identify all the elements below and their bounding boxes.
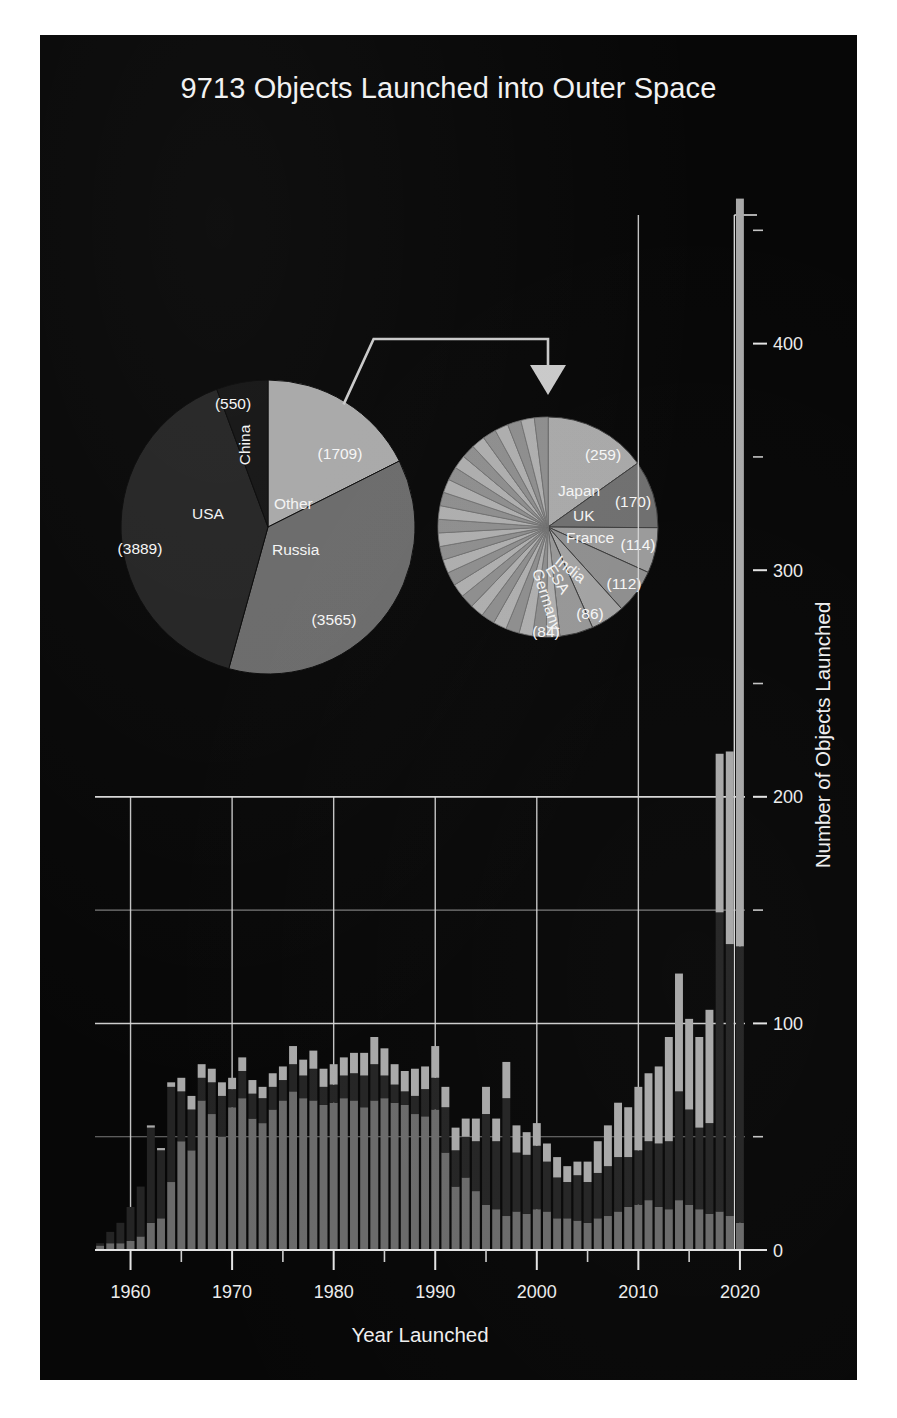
bar-segment-usa	[208, 1082, 216, 1114]
pie-label: (259)	[585, 446, 621, 463]
bar-segment-other	[299, 1060, 307, 1076]
x-tick-label: 1980	[314, 1282, 354, 1302]
bar-segment-russia	[350, 1100, 358, 1250]
bar-segment-usa	[604, 1166, 612, 1216]
bar-segment-usa	[289, 1064, 297, 1091]
main-breakdown-pie	[121, 380, 415, 674]
bar-segment-usa	[259, 1098, 267, 1123]
y-tick-label: 100	[773, 1014, 803, 1034]
bar-segment-russia	[188, 1150, 196, 1250]
bar-segment-other	[492, 1119, 500, 1142]
bar-segment-usa	[624, 1157, 632, 1207]
bar-segment-russia	[665, 1209, 673, 1250]
bar-segment-russia	[431, 1110, 439, 1250]
bar-segment-russia	[685, 1205, 693, 1250]
bar-segment-russia	[736, 1223, 744, 1250]
bar-segment-russia	[675, 1200, 683, 1250]
bar-segment-usa	[472, 1141, 480, 1191]
bar-segment-usa	[391, 1085, 399, 1103]
bar-segment-russia	[421, 1116, 429, 1250]
bar-segment-other	[248, 1080, 256, 1094]
bar-segment-other	[614, 1103, 622, 1157]
callout-arrowhead	[530, 365, 566, 395]
pie-label: (550)	[215, 395, 251, 412]
bar-segment-other	[634, 1087, 642, 1150]
y-tick-label: 200	[773, 787, 803, 807]
pie-label: (1709)	[318, 445, 363, 462]
bar-segment-russia	[513, 1211, 521, 1250]
bar-segment-usa	[157, 1150, 165, 1218]
bar-segment-other	[218, 1082, 226, 1096]
bar-segment-russia	[228, 1107, 236, 1250]
bar-segment-russia	[330, 1103, 338, 1250]
bar-segment-usa	[655, 1144, 663, 1207]
bar-segment-other	[482, 1087, 490, 1114]
pie-label: (112)	[606, 575, 641, 592]
bar-segment-russia	[614, 1211, 622, 1250]
bar-segment-other	[188, 1096, 196, 1110]
bar-segment-russia	[137, 1236, 145, 1250]
bar-segment-other	[147, 1125, 155, 1127]
bar-segment-russia	[147, 1223, 155, 1250]
bar-segment-usa	[462, 1137, 470, 1178]
bar-segment-other	[543, 1144, 551, 1162]
bar-segment-other	[553, 1157, 561, 1177]
bar-chart-ytick-labels: 0100200300400	[773, 334, 803, 1260]
bar-segment-russia	[441, 1153, 449, 1250]
bar-segment-russia	[523, 1214, 531, 1250]
bar-segment-other	[167, 1082, 175, 1087]
bar-segment-other	[736, 199, 744, 947]
pie-label: Japan	[558, 482, 600, 499]
bar-segment-russia	[533, 1209, 541, 1250]
bar-segment-russia	[391, 1103, 399, 1250]
bar-segment-usa	[431, 1078, 439, 1110]
pie-label: (3565)	[312, 611, 357, 628]
x-tick-label: 1960	[111, 1282, 151, 1302]
bar-segment-other	[279, 1066, 287, 1080]
bar-segment-russia	[208, 1114, 216, 1250]
bar-segment-russia	[401, 1105, 409, 1250]
bar-segment-other	[594, 1141, 602, 1173]
bar-segment-usa	[634, 1150, 642, 1204]
bar-segment-usa	[320, 1087, 328, 1105]
callout-line	[344, 339, 548, 404]
bar-segment-russia	[167, 1182, 175, 1250]
other-slice-callout	[344, 339, 566, 404]
bar-segment-usa	[167, 1087, 175, 1182]
bar-segment-russia	[695, 1209, 703, 1250]
bar-segment-other	[269, 1073, 277, 1087]
bar-segment-usa	[340, 1076, 348, 1099]
bar-segment-usa	[513, 1153, 521, 1212]
bar-segment-russia	[726, 1216, 734, 1250]
bar-segment-russia	[269, 1110, 277, 1250]
bar-segment-other	[380, 1048, 388, 1075]
bar-segment-other	[177, 1078, 185, 1092]
bar-segment-usa	[645, 1141, 653, 1200]
bar-segment-usa	[573, 1175, 581, 1220]
bar-segment-usa	[563, 1182, 571, 1218]
bar-segment-other	[340, 1057, 348, 1075]
bar-segment-other	[624, 1107, 632, 1157]
pie-label: (84)	[532, 623, 560, 640]
bar-segment-other	[238, 1057, 246, 1071]
bar-segment-usa	[695, 1128, 703, 1210]
bar-segment-russia	[370, 1100, 378, 1250]
pie-label: (86)	[576, 605, 604, 622]
pie-label: Other	[274, 495, 313, 512]
bar-segment-other	[716, 754, 724, 913]
pie-label: France	[566, 529, 614, 546]
bar-segment-usa	[705, 1123, 713, 1214]
bar-segment-usa	[614, 1157, 622, 1211]
bar-segment-usa	[360, 1076, 368, 1108]
bar-segment-other	[502, 1062, 510, 1098]
poster-panel: 9713 Objects Launched into Outer Space O…	[40, 35, 857, 1380]
bar-segment-usa	[482, 1114, 490, 1205]
bar-segment-russia	[502, 1216, 510, 1250]
bar-segment-other	[289, 1046, 297, 1064]
bar-segment-russia	[705, 1214, 713, 1250]
bar-segment-russia	[472, 1191, 480, 1250]
bar-segment-russia	[106, 1243, 114, 1250]
bar-segment-other	[472, 1119, 480, 1142]
bar-segment-other	[391, 1064, 399, 1084]
bar-segment-other	[573, 1162, 581, 1176]
